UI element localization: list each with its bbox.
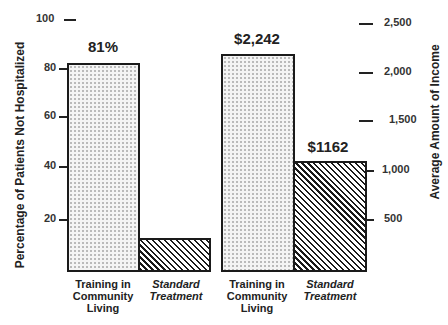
right-tick-2000: 2,000 [384,65,412,77]
right-tick-mark-2000 [359,72,373,74]
right-category-training: Training in Community Living [216,278,298,314]
left-bar1-value-label: 81% [67,38,139,55]
left-tick-mark-60 [59,116,67,118]
right-tick-1000: 1,000 [382,163,410,175]
right-tick-mark-1500 [359,120,373,122]
left-bar-training [67,63,140,272]
left-tick-80: 80 [44,61,56,73]
left-tick-mark-80 [59,68,67,70]
right-tick-1500: 1,500 [389,113,417,125]
right-cat1-line1: Training in [216,278,298,290]
right-bar1-value-label: $2,242 [216,30,298,47]
right-cat1-line3: Living [216,302,298,314]
right-tick-mark-2500 [359,23,373,25]
right-y-axis-title: Average Amount of Income [428,2,442,242]
left-y-axis-title: Percentage of Patients Not Hospitalized [13,35,27,275]
left-tick-mark-100 [64,19,76,21]
right-bar-training [221,54,295,272]
left-tick-mark-20 [59,219,67,221]
right-cat2-line2: Treatment [292,290,368,302]
right-category-standard: Standard Treatment [292,278,368,302]
right-tick-mark-1000 [366,170,374,172]
left-cat2-line2: Treatment [138,290,214,302]
left-bar-standard [138,238,211,272]
left-tick-60: 60 [44,109,56,121]
right-cat2-line1: Standard [292,278,368,290]
right-tick-2500: 2,500 [384,16,412,28]
left-category-standard: Standard Treatment [138,278,214,302]
left-tick-20: 20 [44,212,56,224]
left-category-training: Training in Community Living [62,278,144,314]
right-bar2-value-label: $1162 [290,138,366,155]
left-cat1-line1: Training in [62,278,144,290]
right-bar-standard [293,161,367,272]
left-tick-100: 100 [36,12,54,24]
right-tick-500: 500 [384,212,402,224]
left-cat1-line2: Community [62,290,144,302]
right-cat1-line2: Community [216,290,298,302]
left-tick-mark-40 [59,166,67,168]
right-tick-mark-500 [366,219,374,221]
left-tick-40: 40 [44,159,56,171]
left-cat1-line3: Living [62,302,144,314]
left-cat2-line1: Standard [138,278,214,290]
